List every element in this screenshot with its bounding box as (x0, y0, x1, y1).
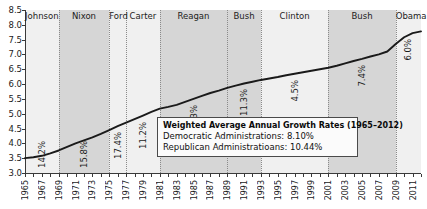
x-tick-label: 1999 (307, 180, 316, 200)
y-tick-label: 6.5 (0, 65, 22, 73)
x-tick-label: 1991 (240, 180, 249, 200)
x-tick-mark (236, 174, 237, 177)
x-tick-label: 1977 (122, 180, 131, 200)
x-tick-mark (109, 174, 110, 177)
y-tick-label: 4.0 (0, 139, 22, 147)
x-tick-mark (320, 174, 321, 177)
x-tick-mark (345, 174, 346, 177)
x-tick-mark (126, 174, 127, 177)
x-tick-label: 1975 (105, 180, 114, 200)
y-tick-label: 7.0 (0, 50, 22, 58)
x-tick-mark (311, 174, 312, 177)
x-tick-label: 1985 (190, 180, 199, 200)
x-tick-mark (396, 174, 397, 177)
x-tick-mark (328, 174, 329, 177)
x-tick-mark (202, 174, 203, 177)
y-tick-label: 6.0 (0, 80, 22, 88)
x-tick-mark (261, 174, 262, 177)
x-tick-mark (177, 174, 178, 177)
x-tick-mark (67, 174, 68, 177)
x-tick-mark (404, 174, 405, 177)
x-tick-label: 1969 (55, 180, 64, 200)
x-tick-mark (337, 174, 338, 177)
x-tick-mark (101, 174, 102, 177)
annotation-title: Weighted Average Annual Growth Rates (19… (163, 121, 353, 131)
x-tick-label: 2009 (392, 180, 401, 200)
y-tick-label: 8.5 (0, 6, 22, 14)
x-tick-mark (295, 174, 296, 177)
x-tick-mark (244, 174, 245, 177)
x-tick-label: 1967 (38, 180, 47, 200)
x-tick-mark (387, 174, 388, 177)
x-tick-label: 2007 (375, 180, 384, 200)
y-tick-label: 5.5 (0, 95, 22, 103)
x-tick-label: 1997 (291, 180, 300, 200)
y-tick-label: 5.0 (0, 110, 22, 118)
x-tick-mark (379, 174, 380, 177)
x-tick-label: 1981 (156, 180, 165, 200)
y-tick-label: 7.5 (0, 36, 22, 44)
x-tick-mark (59, 174, 60, 177)
x-tick-mark (354, 174, 355, 177)
x-tick-mark (42, 174, 43, 177)
x-tick-mark (76, 174, 77, 177)
x-tick-mark (421, 174, 422, 177)
x-tick-mark (84, 174, 85, 177)
x-tick-label: 1995 (274, 180, 283, 200)
y-tick-label: 3.0 (0, 169, 22, 177)
x-tick-mark (362, 174, 363, 177)
x-tick-mark (286, 174, 287, 177)
x-tick-mark (135, 174, 136, 177)
x-tick-label: 2005 (358, 180, 367, 200)
y-tick-label: 4.5 (0, 125, 22, 133)
summary-annotation-box: Weighted Average Annual Growth Rates (19… (157, 117, 358, 157)
x-tick-label: 1965 (21, 180, 30, 200)
x-tick-mark (278, 174, 279, 177)
x-tick-mark (25, 174, 26, 177)
x-tick-mark (194, 174, 195, 177)
x-tick-label: 1993 (257, 180, 266, 200)
x-tick-mark (50, 174, 51, 177)
x-tick-mark (227, 174, 228, 177)
x-tick-label: 2011 (409, 180, 418, 200)
x-tick-mark (370, 174, 371, 177)
x-tick-mark (269, 174, 270, 177)
x-tick-mark (413, 174, 414, 177)
x-tick-label: 1973 (88, 180, 97, 200)
x-tick-mark (151, 174, 152, 177)
x-tick-mark (252, 174, 253, 177)
y-tick-label: 8.0 (0, 21, 22, 29)
x-tick-label: 1989 (223, 180, 232, 200)
annotation-row-democratic: Democratic Administrations: 8.10% (163, 131, 353, 142)
x-tick-label: 1979 (139, 180, 148, 200)
y-tick-label: 3.5 (0, 154, 22, 162)
growth-rate-chart: 8.58.07.57.06.56.05.55.04.54.03.53.0 196… (0, 0, 427, 209)
annotation-row-republican: Republican Administratioans: 10.44% (163, 142, 353, 153)
x-tick-mark (185, 174, 186, 177)
x-tick-mark (118, 174, 119, 177)
x-tick-mark (210, 174, 211, 177)
x-tick-label: 2003 (341, 180, 350, 200)
x-tick-mark (303, 174, 304, 177)
x-tick-mark (143, 174, 144, 177)
x-tick-label: 1983 (173, 180, 182, 200)
x-tick-mark (33, 174, 34, 177)
x-tick-label: 1971 (72, 180, 81, 200)
x-tick-mark (160, 174, 161, 177)
x-tick-mark (219, 174, 220, 177)
x-tick-mark (92, 174, 93, 177)
x-tick-label: 2001 (324, 180, 333, 200)
x-tick-label: 1987 (206, 180, 215, 200)
x-tick-mark (168, 174, 169, 177)
